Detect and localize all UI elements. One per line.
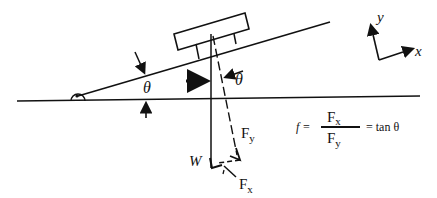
formula-lhs: f = bbox=[296, 120, 310, 134]
formula-denominator: Fy bbox=[327, 130, 341, 149]
fy-arrowhead bbox=[230, 148, 240, 160]
coordinate-axes-icon bbox=[371, 26, 412, 60]
incline-angle-arrow-top bbox=[135, 52, 144, 72]
normal-dashed-line bbox=[213, 36, 237, 155]
formula-numerator: Fx bbox=[327, 109, 341, 127]
weight-angle-label: θ bbox=[235, 71, 243, 88]
fy-label: Fy bbox=[241, 125, 255, 144]
fx-pointer bbox=[224, 166, 236, 177]
formula-rhs: = tan θ bbox=[366, 120, 399, 134]
friction-formula: f = Fx Fy = tan θ bbox=[296, 109, 399, 149]
fx-dashed-line bbox=[218, 160, 240, 163]
x-axis-label: x bbox=[414, 43, 422, 59]
fx-label: Fx bbox=[239, 176, 253, 195]
incline-diagram: θ θ W Fy Fx y x f = Fx Fy = tan θ bbox=[0, 0, 437, 198]
fx-tick bbox=[223, 170, 224, 174]
incline-angle-label: θ bbox=[143, 79, 151, 96]
y-axis-label: y bbox=[375, 9, 384, 25]
weight-label: W bbox=[189, 153, 203, 169]
